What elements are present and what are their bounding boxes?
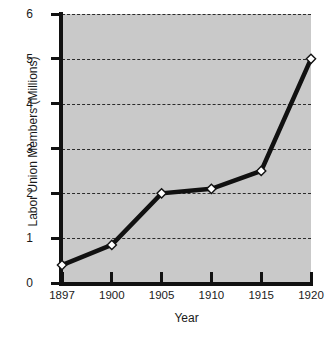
y-tick-label-1: 1 <box>0 232 44 244</box>
y-tick-3 <box>51 147 62 150</box>
y-axis-tick-labels: 0123456 <box>0 0 44 337</box>
y-tick-6 <box>51 13 62 16</box>
x-tick-1915 <box>260 272 263 283</box>
x-tick-1920 <box>310 272 313 283</box>
x-axis-title: Year <box>62 311 311 325</box>
y-tick-label-4: 4 <box>0 98 44 110</box>
line-chart-figure: Labor Union Members (Millions) 0123456 Y… <box>0 0 330 337</box>
x-tick-1910 <box>210 272 213 283</box>
data-series-line <box>62 14 311 283</box>
y-tick-5 <box>51 57 62 60</box>
y-tick-label-0: 0 <box>0 277 44 289</box>
x-tick-1900 <box>110 272 113 283</box>
x-tick-label-1920: 1920 <box>281 290 330 302</box>
y-tick-1 <box>51 237 62 240</box>
x-tick-1897 <box>61 272 64 283</box>
y-tick-2 <box>51 192 62 195</box>
x-tick-1905 <box>160 272 163 283</box>
y-tick-label-6: 6 <box>0 8 44 20</box>
y-tick-label-2: 2 <box>0 187 44 199</box>
series-polyline <box>62 59 311 265</box>
y-tick-4 <box>51 102 62 105</box>
y-tick-label-3: 3 <box>0 143 44 155</box>
y-tick-label-5: 5 <box>0 53 44 65</box>
